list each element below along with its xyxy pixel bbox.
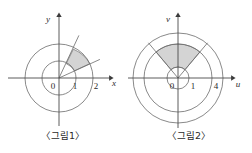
origin-label-figure-2: 0 [170,81,175,91]
figure-1: y x 0 1 2 〈그림1〉 [0,0,126,153]
tick-label-1-figure-1: 1 [73,81,78,91]
figure-1-diagram: y x 0 1 2 [0,0,126,131]
figure-board: y x 0 1 2 〈그림1〉 [0,0,252,153]
caption-figure-2: 〈그림2〉 [126,128,252,142]
tick-label-1-figure-2: 1 [191,81,196,91]
figure-2-diagram: v u 0 1 4 [126,0,252,131]
v-axis-label-figure-2: v [166,14,170,24]
tick-label-2-figure-1: 2 [94,81,99,91]
y-axis-label-figure-1: y [45,14,50,24]
tick-label-4-figure-2: 4 [214,81,219,91]
figure-2: v u 0 1 4 〈그림2〉 [126,0,252,153]
u-axis-label-figure-2: u [236,79,241,89]
caption-figure-1: 〈그림1〉 [0,128,126,142]
origin-label-figure-1: 0 [51,81,56,91]
shaded-sector-figure-1 [66,49,90,71]
x-axis-label-figure-1: x [111,78,116,88]
